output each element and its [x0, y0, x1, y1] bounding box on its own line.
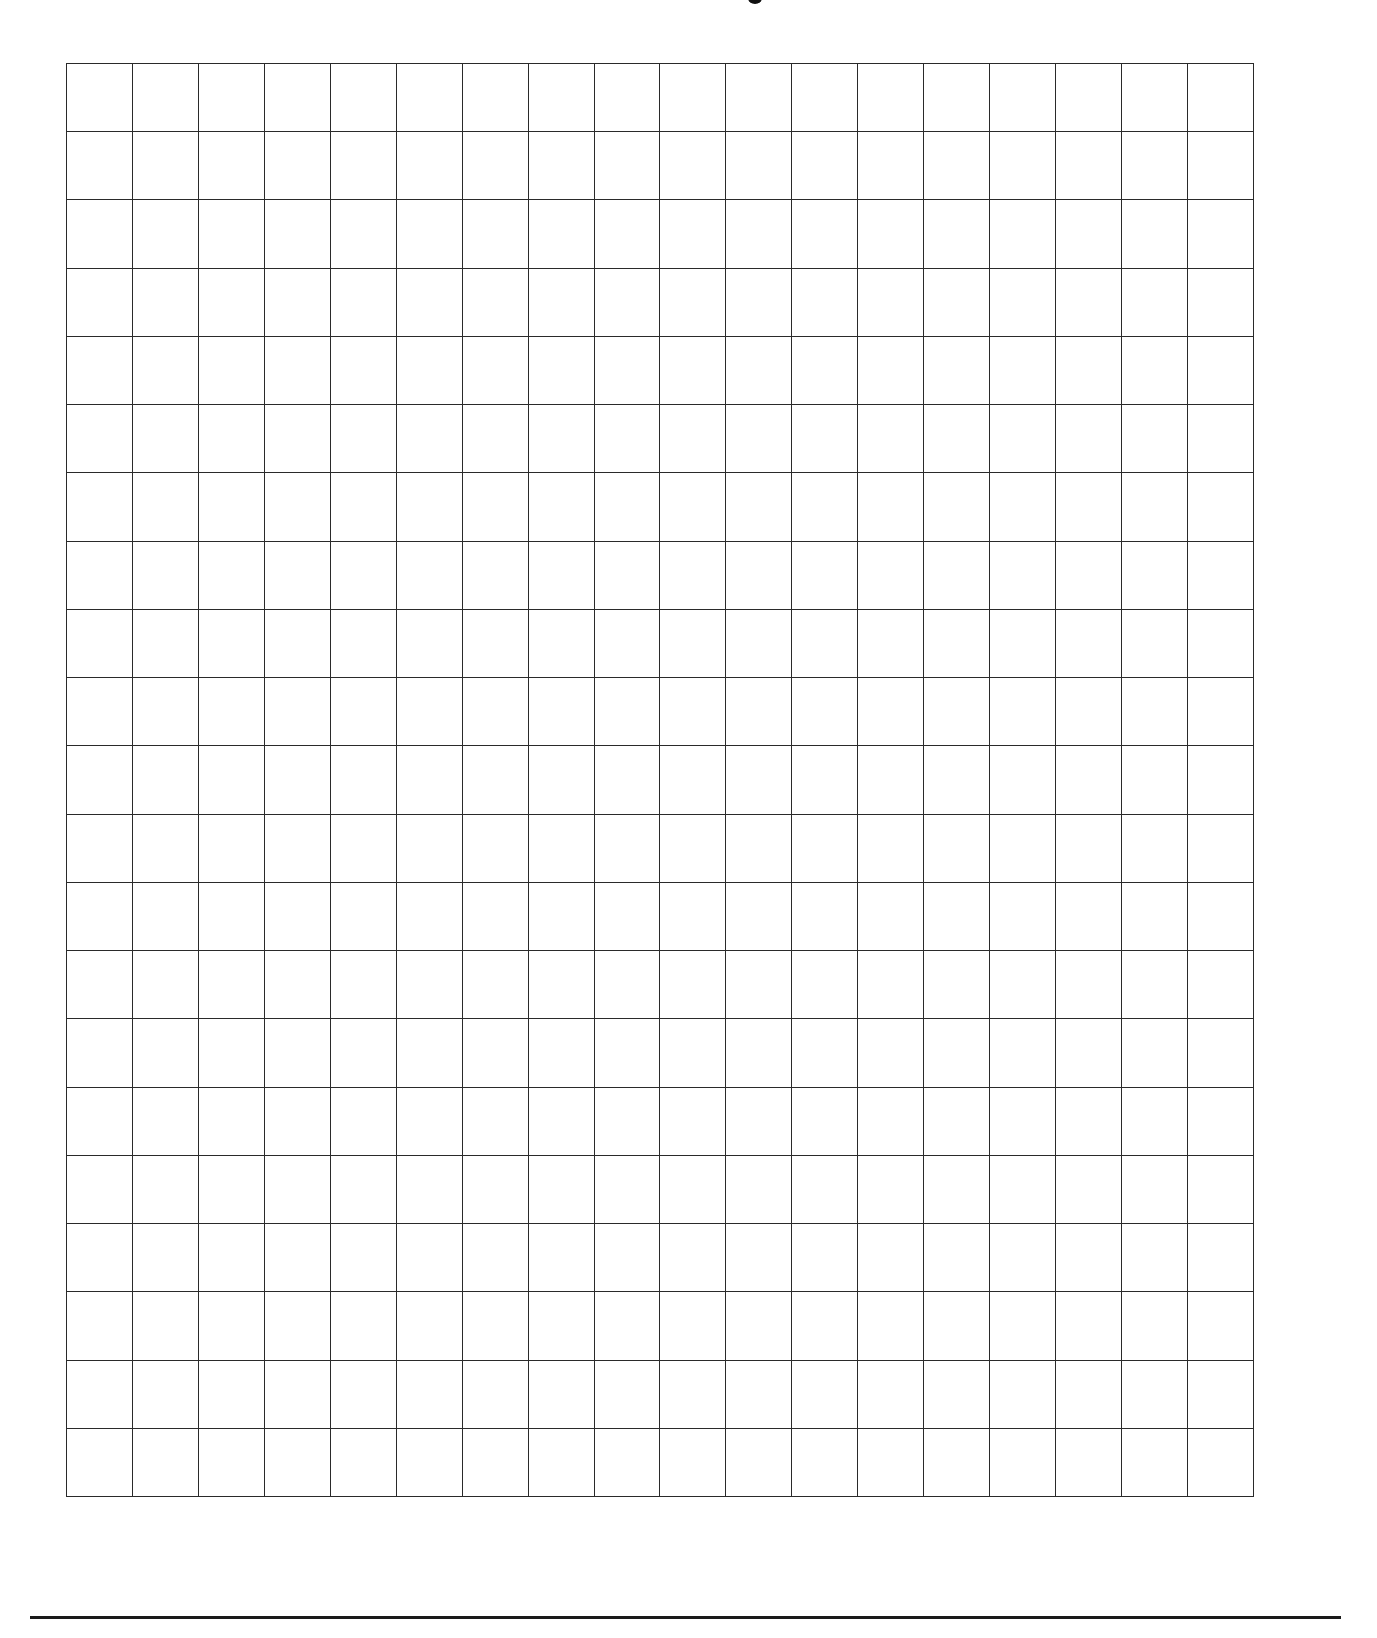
grid-cell	[1122, 883, 1188, 951]
grid-cell	[660, 746, 726, 814]
graph-paper-page	[0, 0, 1377, 1638]
grid-cell	[1122, 542, 1188, 610]
grid-cell	[1056, 815, 1122, 883]
grid-cell	[595, 132, 661, 200]
grid-cell	[924, 1224, 990, 1292]
grid-cell	[1188, 64, 1254, 132]
grid-cell	[265, 883, 331, 951]
grid-cell	[595, 1156, 661, 1224]
grid-cell	[67, 951, 133, 1019]
grid-cell	[397, 200, 463, 268]
grid-cell	[595, 473, 661, 541]
grid-cell	[199, 542, 265, 610]
square-grid	[66, 63, 1254, 1497]
grid-cell	[265, 951, 331, 1019]
grid-cell	[595, 951, 661, 1019]
grid-cell	[990, 1429, 1056, 1497]
grid-cell	[397, 1088, 463, 1156]
grid-cell	[990, 473, 1056, 541]
grid-cell	[726, 200, 792, 268]
grid-cell	[595, 1429, 661, 1497]
grid-cell	[331, 1429, 397, 1497]
grid-cell	[1188, 746, 1254, 814]
grid-cell	[990, 542, 1056, 610]
grid-cell	[1188, 951, 1254, 1019]
grid-cell	[463, 883, 529, 951]
grid-cell	[792, 269, 858, 337]
grid-cell	[660, 951, 726, 1019]
grid-cell	[924, 1292, 990, 1360]
grid-cell	[331, 200, 397, 268]
grid-cell	[792, 951, 858, 1019]
grid-cell	[265, 1156, 331, 1224]
grid-cell	[924, 610, 990, 678]
grid-cell	[990, 815, 1056, 883]
grid-cell	[1188, 678, 1254, 746]
grid-cell	[595, 883, 661, 951]
grid-cell	[265, 200, 331, 268]
grid-cell	[331, 1361, 397, 1429]
grid-cell	[990, 64, 1056, 132]
grid-cell	[199, 1019, 265, 1087]
grid-cell	[199, 1429, 265, 1497]
grid-cell	[990, 610, 1056, 678]
grid-cell	[397, 678, 463, 746]
grid-cell	[199, 337, 265, 405]
grid-cell	[133, 951, 199, 1019]
grid-cell	[265, 269, 331, 337]
grid-cell	[199, 951, 265, 1019]
footer-divider	[30, 1616, 1341, 1619]
grid-cell	[1188, 1019, 1254, 1087]
grid-cell	[67, 1224, 133, 1292]
grid-cell	[924, 746, 990, 814]
grid-cell	[133, 815, 199, 883]
grid-cell	[265, 337, 331, 405]
grid-cell	[1122, 64, 1188, 132]
grid-cell	[858, 678, 924, 746]
grid-cell	[990, 1361, 1056, 1429]
grid-cell	[858, 1361, 924, 1429]
grid-cell	[1056, 200, 1122, 268]
grid-cell	[1122, 1224, 1188, 1292]
grid-cell	[67, 200, 133, 268]
grid-cell	[858, 1292, 924, 1360]
grid-cell	[1188, 1292, 1254, 1360]
grid-cell	[397, 1019, 463, 1087]
grid-cell	[792, 337, 858, 405]
grid-cell	[595, 1088, 661, 1156]
grid-cell	[1122, 610, 1188, 678]
grid-cell	[660, 1292, 726, 1360]
grid-cell	[990, 1224, 1056, 1292]
grid-cell	[924, 1019, 990, 1087]
grid-cell	[529, 473, 595, 541]
grid-cell	[331, 746, 397, 814]
grid-cell	[858, 132, 924, 200]
grid-cell	[67, 883, 133, 951]
grid-cell	[792, 64, 858, 132]
grid-cell	[199, 1361, 265, 1429]
grid-cell	[397, 64, 463, 132]
grid-cell	[792, 678, 858, 746]
grid-cell	[331, 132, 397, 200]
grid-cell	[529, 405, 595, 473]
grid-cell	[990, 1156, 1056, 1224]
grid-cell	[265, 678, 331, 746]
grid-cell	[397, 1156, 463, 1224]
grid-cell	[397, 405, 463, 473]
grid-cell	[463, 1429, 529, 1497]
grid-cell	[726, 542, 792, 610]
grid-cell	[529, 542, 595, 610]
grid-cell	[265, 132, 331, 200]
grid-cell	[792, 1088, 858, 1156]
grid-cell	[1056, 746, 1122, 814]
grid-cell	[660, 1224, 726, 1292]
grid-cell	[265, 1361, 331, 1429]
grid-cell	[924, 132, 990, 200]
grid-cell	[595, 405, 661, 473]
grid-cell	[331, 610, 397, 678]
grid-cell	[990, 746, 1056, 814]
grid-cell	[858, 610, 924, 678]
grid-cell	[792, 815, 858, 883]
grid-cell	[924, 405, 990, 473]
grid-cell	[331, 405, 397, 473]
